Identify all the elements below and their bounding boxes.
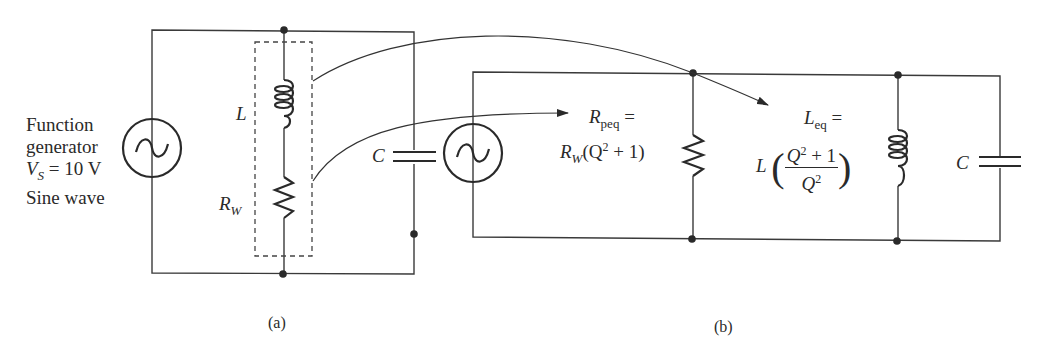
leq-fraction: Q2 + 1Q2 — [785, 140, 838, 195]
leq-expression: L (Q2 + 1Q2) — [756, 140, 851, 195]
panel-a-caption: (a) — [268, 314, 286, 332]
inductor-icon — [275, 80, 293, 128]
resistor-icon — [275, 177, 293, 218]
capacitor-icon — [979, 156, 1021, 168]
source-line-4: Sine wave — [26, 187, 105, 209]
resistor-icon — [684, 135, 703, 176]
resistor-label: RW — [219, 193, 241, 222]
source-line-2: generator — [26, 136, 105, 158]
panel-b-circuit — [444, 69, 1021, 245]
capacitor-label-a: C — [372, 145, 385, 167]
source-voltage: VS = 10 V — [26, 158, 105, 187]
source-line-1: Function — [26, 114, 105, 136]
inductor-icon — [889, 130, 907, 186]
inductor-label: L — [236, 103, 247, 125]
panel-b-caption: (b) — [714, 318, 733, 336]
capacitor-icon — [393, 150, 436, 164]
panel-a-circuit — [123, 26, 436, 278]
rpeq-expression: RW(Q2 + 1) — [560, 136, 645, 170]
source-description: Function generator VS = 10 V Sine wave — [26, 114, 105, 209]
inductor-mapping-arrow — [313, 36, 768, 105]
circuit-diagram — [0, 0, 1042, 353]
resistor-mapping-arrow — [313, 113, 568, 181]
rpeq-label: Rpeq = — [589, 106, 635, 135]
capacitor-label-b: C — [956, 152, 969, 174]
leq-label: Leq = — [804, 107, 842, 136]
